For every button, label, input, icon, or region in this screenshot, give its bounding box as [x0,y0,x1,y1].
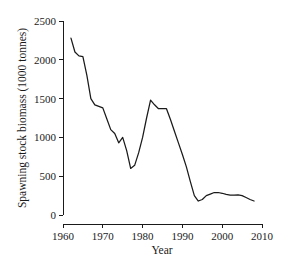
x-tick-label: 2010 [251,230,274,242]
x-tick-label: 1980 [132,230,155,242]
x-tick-label: 2000 [211,230,234,242]
x-tick-label-group: 196019701980199020002010 [52,230,274,242]
y-tick-label: 500 [40,170,57,182]
y-tick-label-group: 05001000150020002500 [34,15,57,221]
x-tick-marks [63,224,262,228]
x-tick-label: 1990 [171,230,194,242]
y-tick-label: 2500 [34,15,57,27]
y-axis-group: 05001000150020002500 Spawning stock biom… [16,15,63,221]
y-tick-label: 1500 [34,93,57,105]
x-tick-label: 1970 [92,230,115,242]
y-tick-marks [59,21,63,215]
series-line-spawning-stock-biomass [71,38,254,201]
y-axis-title: Spawning stock biomass (1000 tonnes) [16,28,29,208]
figure-container: 05001000150020002500 Spawning stock biom… [0,0,282,270]
x-axis-title: Year [151,244,172,256]
x-tick-label: 1960 [52,230,75,242]
line-chart: 05001000150020002500 Spawning stock biom… [0,0,282,270]
y-tick-label: 1000 [34,131,57,143]
x-axis-group: 196019701980199020002010 Year [52,224,274,256]
y-tick-label: 2000 [34,54,57,66]
y-tick-label: 0 [51,209,57,221]
